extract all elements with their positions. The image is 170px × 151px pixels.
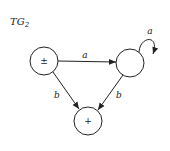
edge-start-final: b: [53, 72, 79, 109]
self-loop-label-a: a: [147, 26, 152, 36]
edge-middle-final: b: [98, 75, 123, 110]
node-final-label: +: [84, 116, 92, 126]
edge-self-loop-middle: a: [139, 26, 154, 54]
node-start-label: ±: [40, 56, 48, 66]
transition-graph: TG2 ± + a a b b: [0, 0, 170, 151]
edge-label-b-left: b: [54, 90, 60, 100]
graph-title: TG2: [10, 16, 30, 29]
edge-start-middle: a: [58, 50, 116, 62]
node-final: +: [74, 107, 102, 135]
edge-label-a: a: [82, 50, 87, 60]
node-start: ±: [30, 47, 58, 75]
edge-label-b-right: b: [116, 90, 122, 100]
node-middle: [116, 49, 144, 77]
